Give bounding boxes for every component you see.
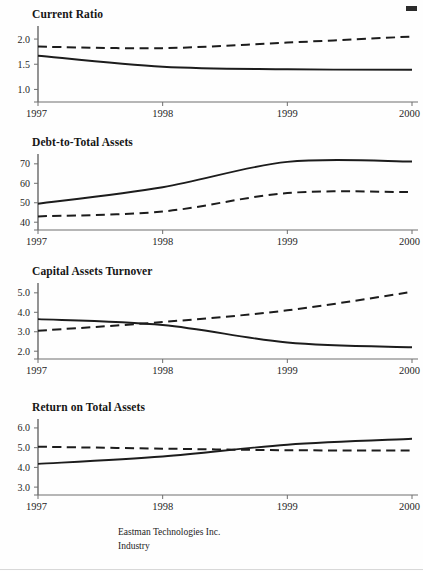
chart-plot-current-ratio: 2.01.51.01997199819992000 xyxy=(0,24,423,126)
chart-svg: 706050401997199819992000 xyxy=(0,152,423,254)
chart-svg: 2.01.51.01997199819992000 xyxy=(0,24,423,126)
chart-panel-return-on-total-assets: Return on Total Assets 6.05.04.03.019971… xyxy=(0,401,423,519)
chart-svg: 6.05.04.03.01997199819992000 xyxy=(0,417,423,519)
x-axis-tick-label: 1999 xyxy=(277,108,298,119)
series-line-company xyxy=(38,56,412,70)
legend-label-company: Eastman Technologies Inc. xyxy=(118,527,220,537)
y-axis-tick-label: 3.0 xyxy=(18,326,31,337)
y-axis-tick-label: 2.0 xyxy=(18,34,31,45)
chart-plot-return-on-total-assets: 6.05.04.03.01997199819992000 xyxy=(0,417,423,519)
x-axis-tick-label: 1999 xyxy=(277,365,298,376)
y-axis-tick-label: 4.0 xyxy=(18,307,31,318)
chart-plot-capital-assets-turnover: 5.04.03.02.01997199819992000 xyxy=(0,281,423,383)
y-axis-tick-label: 6.0 xyxy=(18,422,31,433)
y-axis-tick-label: 1.0 xyxy=(18,84,31,95)
series-line-industry xyxy=(38,191,412,216)
x-axis-tick-label: 1998 xyxy=(152,501,173,512)
chart-sheet-page: Current Ratio 2.01.51.01997199819992000 … xyxy=(0,0,423,571)
series-line-industry xyxy=(38,37,412,49)
x-axis-tick-label: 1998 xyxy=(152,236,173,247)
chart-panel-current-ratio: Current Ratio 2.01.51.01997199819992000 xyxy=(0,8,423,126)
y-axis-tick-label: 3.0 xyxy=(18,482,31,493)
y-axis-tick-label: 40 xyxy=(20,217,30,228)
y-axis-tick-label: 2.0 xyxy=(18,346,31,357)
chart-panel-capital-assets-turnover: Capital Assets Turnover 5.04.03.02.01997… xyxy=(0,265,423,383)
series-line-industry xyxy=(38,292,412,331)
x-axis-tick-label: 2000 xyxy=(399,236,420,247)
y-axis-tick-label: 50 xyxy=(20,197,30,208)
chart-panel-debt-to-total-assets: Debt-to-Total Assets 7060504019971998199… xyxy=(0,136,423,254)
y-axis-tick-label: 60 xyxy=(20,178,30,189)
x-axis-tick-label: 1999 xyxy=(277,236,298,247)
x-axis-tick-label: 2000 xyxy=(399,501,420,512)
chart-title-debt-to-total-assets: Debt-to-Total Assets xyxy=(32,136,133,148)
x-axis-tick-label: 1997 xyxy=(26,365,47,376)
chart-title-capital-assets-turnover: Capital Assets Turnover xyxy=(32,265,153,277)
x-axis-tick-label: 1997 xyxy=(26,236,47,247)
legend-label-industry: Industry xyxy=(118,541,150,551)
chart-legend: Eastman Technologies Inc. Industry xyxy=(0,527,423,565)
y-axis-tick-label: 1.5 xyxy=(18,59,31,70)
chart-title-current-ratio: Current Ratio xyxy=(32,8,103,20)
chart-title-return-on-total-assets: Return on Total Assets xyxy=(32,401,145,413)
x-axis-tick-label: 1997 xyxy=(26,108,47,119)
y-axis-tick-label: 4.0 xyxy=(18,462,31,473)
x-axis-tick-label: 1998 xyxy=(152,108,173,119)
series-line-company xyxy=(38,319,412,347)
x-axis-tick-label: 1997 xyxy=(26,501,47,512)
x-axis-tick-label: 2000 xyxy=(399,108,420,119)
y-axis-tick-label: 70 xyxy=(20,158,30,169)
series-line-company xyxy=(38,439,412,464)
y-axis-tick-label: 5.0 xyxy=(18,287,31,298)
y-axis-tick-label: 5.0 xyxy=(18,442,31,453)
x-axis-tick-label: 1999 xyxy=(277,501,298,512)
page-bottom-rule xyxy=(0,569,423,570)
chart-plot-debt-to-total-assets: 706050401997199819992000 xyxy=(0,152,423,254)
x-axis-tick-label: 1998 xyxy=(152,365,173,376)
chart-svg: 5.04.03.02.01997199819992000 xyxy=(0,281,423,383)
series-line-company xyxy=(38,160,412,204)
x-axis-tick-label: 2000 xyxy=(399,365,420,376)
